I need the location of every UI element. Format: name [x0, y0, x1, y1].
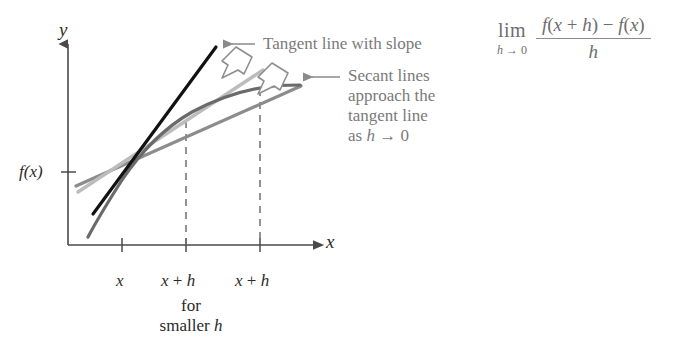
- difference-quotient: f(x + h) − f(x) h: [536, 14, 651, 63]
- figure-container: y x f(x) x x + h x + h for smaller h Tan…: [0, 0, 691, 348]
- x-axis-label: x: [326, 232, 334, 251]
- limit-sub-arrow: → 0: [503, 43, 527, 57]
- tick-label-x-plus-h-smaller: x + h: [161, 272, 195, 289]
- tick1-var: x: [161, 271, 169, 290]
- num-x1: x: [554, 14, 562, 35]
- secant-annotation-line2: approach the: [348, 86, 435, 106]
- num-h: h: [582, 14, 592, 35]
- limit-lim-word: lim: [498, 19, 526, 42]
- secant-h-var: h: [366, 126, 375, 145]
- tick-sublabel: for smaller h: [136, 296, 246, 337]
- tick-label-x-plus-h: x + h: [235, 272, 269, 289]
- y-axis-label: y: [59, 20, 67, 39]
- secant-as-text: as: [348, 126, 366, 145]
- tick-sublabel-prefix: smaller: [160, 316, 214, 335]
- num-paren3: ): [638, 14, 644, 35]
- fx-value-label: f(x): [19, 163, 43, 180]
- tick-sublabel-line2: smaller h: [136, 316, 246, 336]
- derivative-limit-expression: lim h → 0 f(x + h) − f(x) h: [497, 14, 651, 63]
- tangent-annotation-text: Tangent line with slope: [263, 34, 422, 54]
- secant-annotation-line4: as h → 0: [348, 126, 435, 146]
- limit-operator: lim h → 0: [497, 19, 527, 58]
- secant-line-smaller-h: [78, 70, 263, 192]
- rotation-arrow-lower: [258, 63, 288, 94]
- tick1-op: +: [169, 271, 187, 290]
- secant-annotation-line3: tangent line: [348, 106, 435, 126]
- num-plus: +: [562, 14, 582, 35]
- fx-value-text: f(x): [19, 162, 43, 181]
- tick2-op: +: [243, 271, 261, 290]
- difference-quotient-denominator: h: [589, 39, 599, 63]
- tick2-var: x: [235, 271, 243, 290]
- tick-label-x-var: x: [116, 271, 124, 290]
- function-curve: [88, 85, 300, 237]
- limit-subscript: h → 0: [497, 43, 527, 58]
- tick1-h: h: [187, 271, 196, 290]
- tick-sublabel-h: h: [214, 316, 223, 335]
- secant-annotation-line1: Secant lines: [348, 66, 435, 86]
- tick-sublabel-line1: for: [136, 296, 246, 316]
- secant-annotation-text: Secant lines approach the tangent line a…: [348, 66, 435, 146]
- num-minus: ) −: [592, 14, 619, 35]
- rotation-arrow-upper: [222, 47, 252, 78]
- tick2-h: h: [261, 271, 270, 290]
- difference-quotient-numerator: f(x + h) − f(x): [536, 14, 651, 38]
- tick-label-x: x: [116, 272, 124, 289]
- secant-limit-text: → 0: [375, 126, 409, 145]
